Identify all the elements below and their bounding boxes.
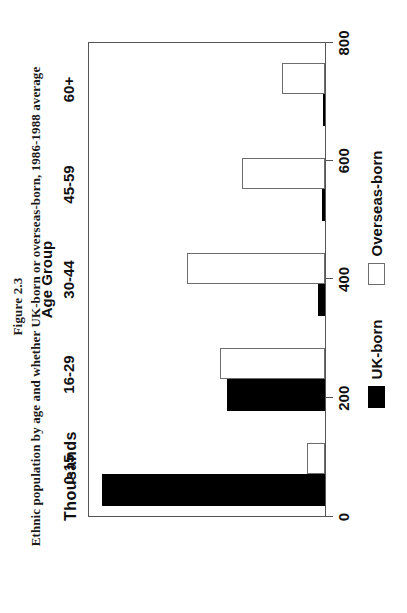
value-tick-label-800: 800 xyxy=(335,30,352,55)
category-label-30-44: 30-44 xyxy=(60,260,77,298)
category-label-45-59: 45-59 xyxy=(60,165,77,203)
bar-group xyxy=(89,421,325,516)
value-tick-label-400: 400 xyxy=(335,267,352,292)
category-label-16-29: 16-29 xyxy=(60,355,77,393)
figure-canvas: Figure 2.3 Ethnic population by age and … xyxy=(0,0,407,613)
value-tick xyxy=(326,42,333,43)
legend-swatch-overseas-born xyxy=(368,263,385,285)
bar-overseas-born-30-44 xyxy=(187,253,325,284)
legend-item-uk-born[interactable]: UK-born xyxy=(368,319,385,408)
category-label-60+: 60+ xyxy=(60,77,77,102)
bar-group xyxy=(89,41,325,136)
value-tick-label-0: 0 xyxy=(335,513,352,521)
category-axis-title: Age Group xyxy=(38,42,55,517)
category-axis: 0-1516-2930-4445-5960+ xyxy=(60,42,86,517)
bar-uk-born-45-59 xyxy=(322,189,325,220)
bar-overseas-born-45-59 xyxy=(242,158,325,189)
category-label-0-15: 0-15 xyxy=(60,454,77,484)
bar-uk-born-0-15 xyxy=(102,474,325,505)
value-tick xyxy=(326,516,333,517)
bar-uk-born-60+ xyxy=(323,94,325,125)
value-axis: 0200400600800 xyxy=(326,42,366,517)
plot-area xyxy=(88,42,326,517)
value-tick-label-200: 200 xyxy=(335,386,352,411)
legend-swatch-uk-born xyxy=(368,386,385,408)
legend-label: Overseas-born xyxy=(368,151,385,257)
value-tick-label-600: 600 xyxy=(335,148,352,173)
bar-group xyxy=(89,231,325,326)
chart-legend: UK-bornOverseas-born xyxy=(368,42,385,517)
legend-label: UK-born xyxy=(368,319,385,379)
value-tick xyxy=(326,160,333,161)
bar-overseas-born-60+ xyxy=(282,63,325,94)
legend-item-overseas-born[interactable]: Overseas-born xyxy=(368,151,385,286)
value-tick xyxy=(326,397,333,398)
bar-overseas-born-16-29 xyxy=(220,348,325,379)
bar-uk-born-30-44 xyxy=(318,284,325,315)
value-tick xyxy=(326,279,333,280)
figure-number: Figure 2.3 xyxy=(10,0,26,613)
bar-group xyxy=(89,326,325,421)
bar-uk-born-16-29 xyxy=(227,379,325,410)
bar-group xyxy=(89,136,325,231)
bar-overseas-born-0-15 xyxy=(307,443,325,474)
